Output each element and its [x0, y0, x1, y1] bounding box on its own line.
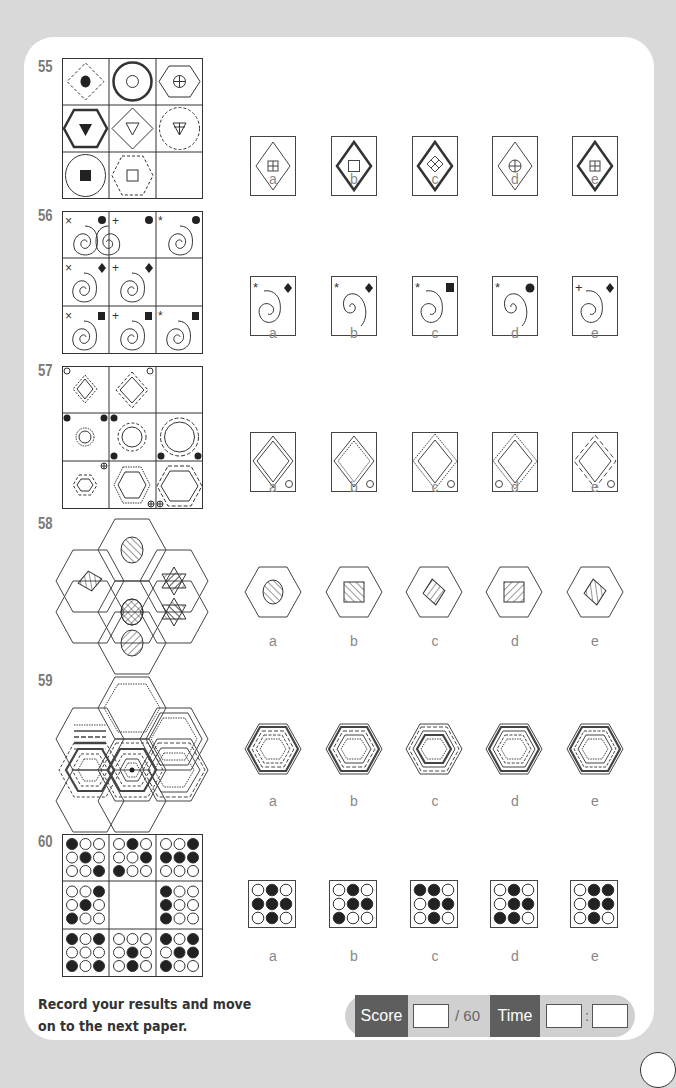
q56-label-e: e — [585, 325, 605, 341]
score-label: Score — [355, 995, 408, 1037]
q59-label-c: c — [425, 793, 445, 809]
empty-dot — [442, 912, 454, 924]
q60-option-a[interactable] — [248, 880, 296, 928]
empty-dot — [161, 866, 172, 877]
q60-label-e: e — [585, 948, 605, 964]
filled-dot — [67, 913, 78, 924]
time-seconds-input[interactable] — [592, 1004, 628, 1028]
svg-text:*: * — [158, 309, 163, 323]
filled-dot — [94, 886, 105, 897]
q59-option-c[interactable] — [405, 723, 463, 775]
empty-dot — [188, 886, 199, 897]
q60-option-e[interactable] — [570, 880, 618, 928]
filled-dot — [127, 839, 138, 850]
empty-dot — [141, 934, 152, 945]
filled-dot — [266, 898, 278, 910]
filled-dot — [67, 839, 78, 850]
question-number-56: 56 — [38, 207, 53, 225]
filled-dot — [94, 961, 105, 972]
q57-label-a: a — [263, 479, 283, 495]
empty-dot — [67, 886, 78, 897]
empty-dot — [333, 898, 345, 910]
filled-dot — [174, 852, 185, 863]
filled-dot — [80, 900, 91, 911]
q58-option-b[interactable] — [325, 566, 383, 618]
empty-dot — [574, 884, 586, 896]
filled-dot — [141, 852, 152, 863]
q56-puzzle-grid: ×+* ×+ ×+* — [62, 211, 203, 354]
empty-dot — [574, 912, 586, 924]
empty-dot — [522, 884, 534, 896]
filled-dot — [94, 866, 105, 877]
filled-dot — [188, 947, 199, 958]
q58-option-a[interactable] — [244, 566, 302, 618]
q59-option-e[interactable] — [566, 723, 624, 775]
q55-label-c: c — [425, 171, 445, 187]
empty-dot — [361, 912, 373, 924]
empty-dot — [522, 912, 534, 924]
q55-option-d[interactable] — [492, 136, 538, 196]
filled-dot — [602, 884, 614, 896]
filled-dot — [188, 839, 199, 850]
q59-label-e: e — [585, 793, 605, 809]
q59-label-a: a — [263, 793, 283, 809]
q57-label-c: c — [425, 479, 445, 495]
q55-option-b[interactable] — [331, 136, 377, 196]
filled-dot — [508, 912, 520, 924]
question-number-60: 60 — [38, 833, 53, 851]
filled-dot — [588, 912, 600, 924]
question-number-59: 59 — [38, 672, 53, 690]
empty-dot — [174, 900, 185, 911]
q55-option-a[interactable] — [250, 136, 296, 196]
filled-dot — [161, 900, 172, 911]
filled-dot — [80, 852, 91, 863]
q58-option-d[interactable] — [485, 566, 543, 618]
empty-dot — [67, 866, 78, 877]
filled-dot — [161, 852, 172, 863]
empty-dot — [347, 912, 359, 924]
page-number-circle — [640, 1052, 676, 1088]
q55-option-e[interactable] — [572, 136, 618, 196]
empty-dot — [188, 866, 199, 877]
time-minutes-input[interactable] — [546, 1004, 582, 1028]
empty-dot — [602, 912, 614, 924]
q60-option-d[interactable] — [490, 880, 538, 928]
q60-dot-grid — [62, 834, 203, 977]
filled-dot — [508, 884, 520, 896]
q60-label-b: b — [344, 948, 364, 964]
q59-label-b: b — [344, 793, 364, 809]
empty-dot — [80, 839, 91, 850]
filled-dot — [266, 912, 278, 924]
q59-option-a[interactable] — [244, 723, 302, 775]
footer-instruction-line1: Record your results and move — [38, 993, 251, 1015]
q60-option-c[interactable] — [410, 880, 458, 928]
q59-option-b[interactable] — [325, 723, 383, 775]
q59-option-d[interactable] — [485, 723, 543, 775]
filled-dot — [94, 934, 105, 945]
empty-dot — [494, 898, 506, 910]
empty-dot — [361, 884, 373, 896]
empty-dot — [333, 884, 345, 896]
q57-label-d: d — [505, 479, 525, 495]
q58-label-a: a — [263, 633, 283, 649]
svg-text:*: * — [158, 214, 163, 228]
q60-label-a: a — [263, 948, 283, 964]
filled-dot — [280, 898, 292, 910]
empty-dot — [114, 839, 125, 850]
empty-dot — [280, 884, 292, 896]
q58-option-c[interactable] — [405, 566, 463, 618]
q60-option-b[interactable] — [329, 880, 377, 928]
empty-dot — [141, 866, 152, 877]
filled-dot — [188, 852, 199, 863]
q58-label-d: d — [505, 633, 525, 649]
filled-dot — [67, 934, 78, 945]
q55-option-c[interactable] — [412, 136, 458, 196]
q55-label-a: a — [263, 171, 283, 187]
footer-instruction-line2: on to the next paper. — [38, 1015, 251, 1037]
score-input[interactable] — [413, 1004, 449, 1028]
q58-option-e[interactable] — [566, 566, 624, 618]
filled-dot — [508, 898, 520, 910]
score-bar: Score / 60 Time : — [345, 995, 635, 1037]
time-separator: : — [585, 995, 589, 1037]
empty-dot — [188, 913, 199, 924]
